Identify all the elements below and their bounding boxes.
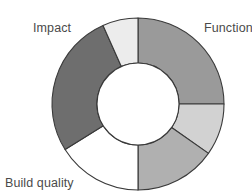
donut-hole [97,63,179,145]
segment-label-function: Function [204,22,252,35]
segment-label-build-quality: Build quality [5,177,74,190]
segment-label-impact: Impact [33,22,71,35]
